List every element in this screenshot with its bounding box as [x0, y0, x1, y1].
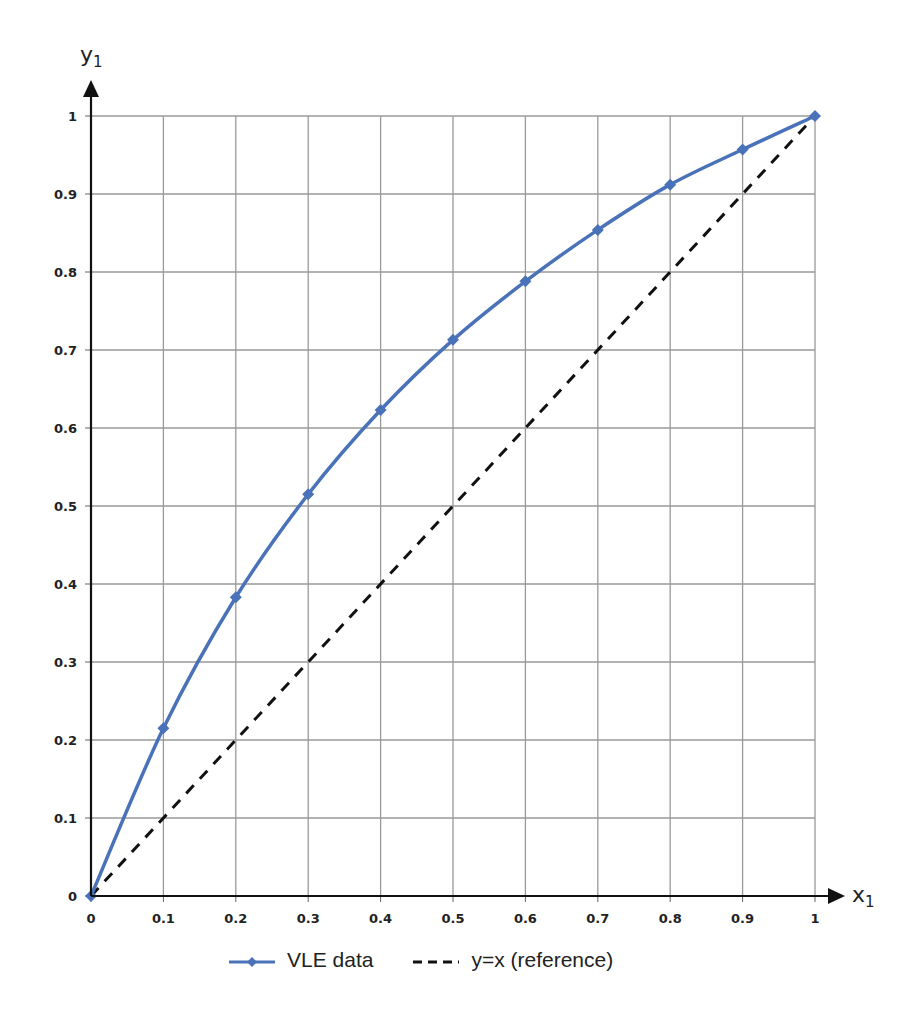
dashed-line-icon: [411, 950, 461, 970]
x-tick-label: 0.9: [731, 911, 754, 926]
vle-chart: 00.10.20.30.40.50.60.70.80.9100.10.20.30…: [0, 0, 920, 1031]
x-tick-label: 0.3: [297, 911, 320, 926]
y-tick-label: 0.6: [54, 421, 77, 436]
x-tick-label: 0.4: [369, 911, 392, 926]
y-axis-arrow-icon: [83, 80, 99, 97]
y-tick-label: 1: [68, 109, 77, 124]
x-tick-label: 0.2: [224, 911, 247, 926]
x-tick-label: 0: [86, 911, 95, 926]
y-tick-label: 0.5: [54, 499, 77, 514]
legend-item-reference: y=x (reference): [411, 948, 613, 972]
diamond-marker-icon: [809, 110, 821, 122]
x-tick-label: 0.7: [586, 911, 609, 926]
y-tick-label: 0.1: [54, 811, 77, 826]
y-axis-label: y1: [80, 42, 103, 71]
x-tick-label: 0.8: [659, 911, 682, 926]
x-axis-label: x1: [852, 882, 875, 911]
y-tick-label: 0.8: [54, 265, 77, 280]
legend-label-reference: y=x (reference): [471, 948, 613, 972]
x-axis-arrow-icon: [828, 888, 845, 904]
x-tick-label: 0.6: [514, 911, 537, 926]
x-tick-label: 0.1: [152, 911, 175, 926]
diamond-marker-icon: [737, 144, 749, 156]
legend-label-vle: VLE data: [287, 948, 373, 972]
solid-line-diamond-icon: [227, 950, 277, 970]
y-tick-label: 0.7: [54, 343, 77, 358]
y-tick-label: 0.9: [54, 187, 77, 202]
tick-labels: 00.10.20.30.40.50.60.70.80.9100.10.20.30…: [54, 109, 820, 926]
y-tick-label: 0: [68, 889, 77, 904]
x-tick-label: 0.5: [441, 911, 464, 926]
y-tick-label: 0.2: [54, 733, 77, 748]
x-tick-label: 1: [810, 911, 819, 926]
legend-item-vle: VLE data: [227, 948, 373, 972]
diamond-marker-icon: [157, 722, 169, 734]
legend: VLE data y=x (reference): [227, 945, 651, 975]
y-tick-label: 0.4: [54, 577, 77, 592]
y-tick-label: 0.3: [54, 655, 77, 670]
